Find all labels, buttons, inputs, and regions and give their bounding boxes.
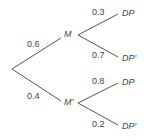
prob-dpp-given-m: 0.7 [92, 51, 105, 60]
branch-m-dp [78, 14, 118, 35]
prob-m-prime: 0.4 [27, 92, 40, 101]
leaf-dp-1: DP [122, 9, 135, 18]
leaf-dpp-2: DP' [122, 122, 136, 131]
prob-dp-given-m: 0.3 [92, 8, 105, 17]
branch-mp-dp [78, 83, 118, 103]
node-m-prime: M' [64, 98, 73, 107]
leaf-dpp-1: DP' [122, 54, 136, 63]
prob-m: 0.6 [27, 40, 40, 49]
prob-dpp-given-mp: 0.2 [92, 120, 105, 129]
prob-dp-given-mp: 0.8 [92, 77, 105, 86]
leaf-dp-2: DP [122, 78, 135, 87]
node-m: M [64, 30, 72, 39]
tree-diagram [0, 0, 144, 140]
